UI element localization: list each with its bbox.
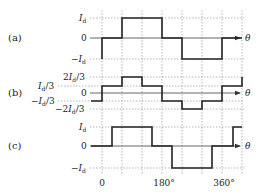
level-label-neg-id: −Id xyxy=(71,163,86,174)
level-label-zero: 0 xyxy=(81,88,87,98)
panel-c: (c) Id 0 −Id θ xyxy=(8,122,251,174)
panel-b: (b) 2Id/3 Id/3 0 −Id/3 −2Id/3 θ xyxy=(8,72,251,115)
level-label-id3: Id/3 xyxy=(37,81,54,92)
x-tick-0: 0 xyxy=(99,178,105,188)
panel-c-label: (c) xyxy=(8,140,22,151)
theta-axis-label: θ xyxy=(245,88,251,98)
waveform-c xyxy=(91,127,242,168)
level-label-neg-id3: −Id/3 xyxy=(31,96,55,107)
current-waveform-diagram: (a) Id 0 −Id θ (b) 2Id/3 Id/3 0 −Id/3 −2… xyxy=(0,0,259,195)
panel-b-label: (b) xyxy=(8,87,22,98)
x-tick-360: 360° xyxy=(213,178,235,188)
x-tick-labels: 0 180° 360° xyxy=(99,178,235,188)
level-label-zero: 0 xyxy=(81,141,87,151)
theta-axis-label: θ xyxy=(245,33,251,43)
level-label-neg-id: −Id xyxy=(71,54,86,65)
x-tick-180: 180° xyxy=(153,178,175,188)
level-label-id: Id xyxy=(78,13,87,24)
panel-a-label: (a) xyxy=(8,32,22,43)
level-label-zero: 0 xyxy=(81,33,87,43)
waveform-a xyxy=(102,18,242,59)
theta-axis-label: θ xyxy=(245,141,251,151)
level-label-id: Id xyxy=(78,122,87,133)
level-label-2id3: 2Id/3 xyxy=(63,72,85,83)
panel-a: (a) Id 0 −Id θ xyxy=(8,13,251,65)
level-label-neg-2id3: −2Id/3 xyxy=(55,104,85,115)
